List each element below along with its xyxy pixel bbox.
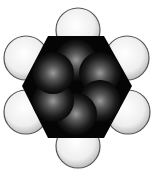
benzene-model: [0, 0, 152, 176]
carbon-atom: [32, 52, 74, 94]
molecule-figure: [0, 0, 152, 176]
